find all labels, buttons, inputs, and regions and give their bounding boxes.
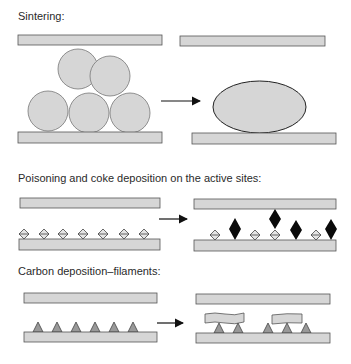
active-sites <box>19 229 149 239</box>
diagram-canvas <box>0 0 351 364</box>
sintering-before <box>18 35 162 143</box>
carbon-after <box>196 294 330 343</box>
support-plate-bottom <box>19 239 160 250</box>
support-plate-top <box>180 36 325 46</box>
support-plate-bottom <box>24 332 157 342</box>
poisoning-before <box>19 198 160 250</box>
carbon-filament <box>205 313 244 324</box>
support-plate-top <box>20 198 160 208</box>
particle <box>69 93 109 133</box>
carbon-before <box>24 293 157 342</box>
support-plate-top <box>24 293 157 303</box>
support-plate-bottom <box>18 132 162 143</box>
sintered-particle <box>213 81 306 133</box>
particle <box>90 56 130 96</box>
support-plate-bottom <box>194 240 336 251</box>
active-sites <box>214 323 311 333</box>
particle <box>110 93 150 133</box>
active-sites <box>210 230 321 240</box>
support-plate-bottom <box>192 133 336 144</box>
active-sites <box>33 322 138 332</box>
support-plate-top <box>18 35 162 45</box>
particle <box>28 91 68 131</box>
support-plate-bottom <box>196 333 330 343</box>
support-plate-top <box>194 199 336 209</box>
sintering-after <box>180 36 336 144</box>
catalyst-deactivation-diagram: Sintering: Poisoning and coke deposition… <box>0 0 351 364</box>
poisoning-after <box>194 199 337 251</box>
support-plate-top <box>196 294 330 304</box>
